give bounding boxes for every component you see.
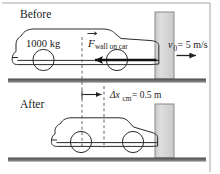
ground-before	[8, 79, 206, 83]
force-subscript: wall on car	[95, 42, 128, 51]
wall-after	[155, 104, 174, 158]
displacement-symbol: Δx	[109, 90, 121, 100]
wheel-rear-after	[122, 131, 143, 152]
car-after	[51, 118, 157, 153]
displacement-measure: Δx cm = 0.5 m	[82, 90, 162, 103]
panel-after: After	[8, 98, 206, 162]
ground-after	[8, 158, 206, 162]
displacement-value: = 0.5 m	[132, 90, 162, 100]
displacement-label: Δx cm = 0.5 m	[109, 90, 162, 103]
phase-label-before: Before	[20, 8, 51, 20]
panel-before: Before 1000 kg F wall on car v 0 = 5 m/s	[8, 8, 208, 83]
physics-figure-car-wall-collision: Before 1000 kg F wall on car v 0 = 5 m/s	[0, 0, 220, 174]
force-label: F wall on car	[87, 32, 128, 51]
car-before	[12, 29, 159, 71]
force-symbol: F	[87, 37, 95, 49]
phase-label-after: After	[20, 98, 44, 110]
wheel-front-after	[70, 131, 91, 152]
velocity-value: = 5 m/s	[178, 39, 208, 50]
mass-label: 1000 kg	[26, 38, 61, 49]
reference-lines	[82, 37, 104, 148]
force-vector-accent-icon	[88, 32, 97, 35]
displacement-subscript: cm	[123, 94, 132, 103]
velocity-symbol: v	[168, 39, 173, 50]
